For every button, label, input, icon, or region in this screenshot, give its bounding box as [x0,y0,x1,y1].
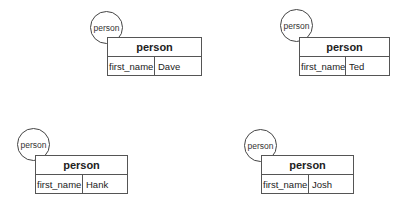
field-value: Dave [155,57,201,75]
circle-label: person [284,21,310,31]
person-table: person first_name Josh [261,155,354,194]
field-name: first_name [262,175,309,193]
person-table: person first_name Ted [299,37,390,76]
table-header: person [36,156,127,175]
person-table: person first_name Dave [107,37,202,76]
circle-label: person [94,23,120,33]
table-header: person [300,38,389,57]
field-value: Ted [346,57,389,75]
field-name: first_name [108,57,155,75]
circle-label: person [21,140,47,150]
table-row: first_name Josh [262,175,353,193]
table-row: first_name Hank [36,175,127,193]
field-value: Hank [83,175,127,193]
table-header: person [108,38,201,57]
field-name: first_name [300,57,346,75]
table-row: first_name Dave [108,57,201,75]
field-name: first_name [36,175,83,193]
person-table: person first_name Hank [35,155,128,194]
table-header: person [262,156,353,175]
field-value: Josh [309,175,353,193]
circle-label: person [248,141,274,151]
table-row: first_name Ted [300,57,389,75]
